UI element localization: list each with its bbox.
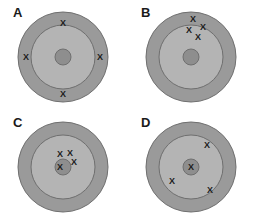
panel-b-mark-1: X [190,15,196,24]
panel-d: DXXXX [128,110,255,220]
panel-a: AXXXX [0,0,127,110]
panel-c-mark-4: X [57,163,63,172]
panel-a-mark-4: X [60,90,66,99]
panel-a-mark-3: X [97,53,103,62]
panel-d-label: D [141,116,151,129]
panel-b-mark-2: X [200,23,206,32]
panel-b-mark-3: X [186,26,192,35]
panel-d-mark-4: X [207,186,213,195]
panel-c-mark-1: X [57,150,63,159]
panel-a-label: A [13,6,23,19]
panel-c-label: C [13,116,23,129]
panel-d-mark-2: X [188,163,194,172]
panel-b-mark-4: X [195,33,201,42]
panel-b: BXXXX [128,0,255,110]
accuracy-precision-figure: AXXXXBXXXXCXXXXDXXXX [0,0,255,220]
panel-b-label: B [141,6,151,19]
panel-c: CXXXX [0,110,127,220]
panel-a-mark-1: X [60,19,66,28]
panel-d-mark-1: X [204,141,210,150]
panel-a-bullseye [55,49,71,65]
panel-a-mark-2: X [23,53,29,62]
panel-d-mark-3: X [169,177,175,186]
panel-b-bullseye [183,49,199,65]
panel-c-mark-3: X [71,158,77,167]
